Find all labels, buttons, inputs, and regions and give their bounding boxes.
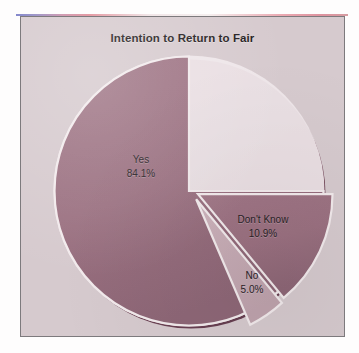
pie-label-no: No 5.0% (221, 269, 283, 296)
pie-label-yes-name: Yes (106, 153, 176, 167)
chart-frame: Intention to Return to Fair (20, 16, 345, 337)
pie-label-dont-know-value: 10.9% (217, 227, 309, 241)
pie-label-dont-know: Don't Know 10.9% (217, 213, 309, 240)
pie-label-no-name: No (221, 269, 283, 283)
page-root: Intention to Return to Fair (0, 0, 359, 353)
pie-label-yes-value: 84.1% (106, 167, 176, 181)
pie-chart-svg (21, 17, 345, 337)
pie-label-dont-know-name: Don't Know (217, 213, 309, 227)
pie-label-no-value: 5.0% (221, 283, 283, 297)
pie-chart: Yes 84.1% Don't Know 10.9% No 5.0% (21, 17, 345, 337)
pie-label-yes: Yes 84.1% (106, 153, 176, 180)
